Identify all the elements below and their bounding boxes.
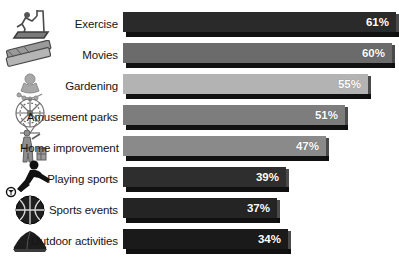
bar-shadow [126,187,289,192]
chart-row: Home improvement47% [0,133,396,163]
bar-fill [123,43,392,63]
bar-value-label: 47% [296,136,319,156]
bar-shadow [126,156,329,161]
category-label: Sports events [20,195,118,225]
bar-shadow [126,63,395,68]
bar-end-cap [277,200,280,223]
category-label: Amusement parks [20,102,118,132]
category-label: Home improvement [20,133,118,163]
chart-row: Outdoor activities34% [0,226,396,256]
chart-row: Movies60% [0,40,396,70]
bar: 37% [123,198,277,223]
bar-shadow [126,249,291,254]
chart-row: Amusement parks51% [0,102,396,132]
bar: 34% [123,229,288,254]
bar-shadow [126,125,348,130]
bar-value-label: 34% [258,229,281,249]
bar-shadow [126,94,371,99]
bar-value-label: 37% [247,198,270,218]
chart-row: Playing sports39% [0,164,396,194]
bar-shadow [126,32,399,37]
bar: 61% [123,12,396,37]
bar: 55% [123,74,368,99]
bar-value-label: 61% [366,12,389,32]
chart-row: Gardening55% [0,71,396,101]
bar-end-cap [392,45,395,68]
bar: 51% [123,105,345,130]
bar-value-label: 60% [362,43,385,63]
bar-end-cap [326,138,329,161]
bar-end-cap [368,76,371,99]
bar-fill [123,105,345,125]
bar: 39% [123,167,286,192]
bar: 60% [123,43,392,68]
bar-end-cap [345,107,348,130]
bar-fill [123,74,368,94]
bar-fill [123,12,396,32]
category-label: Movies [20,40,118,70]
bar-value-label: 55% [338,74,361,94]
category-label: Outdoor activities [20,226,118,256]
category-label: Gardening [20,71,118,101]
bar-value-label: 39% [256,167,279,187]
category-label: Exercise [20,9,118,39]
category-label: Playing sports [20,164,118,194]
bar-end-cap [286,169,289,192]
chart-row: Exercise61% [0,9,396,39]
bar: 47% [123,136,326,161]
chart-title [0,0,396,1]
bar-shadow [126,218,280,223]
bar-value-label: 51% [315,105,338,125]
bar-end-cap [288,231,291,254]
chart-row: Sports events37% [0,195,396,225]
